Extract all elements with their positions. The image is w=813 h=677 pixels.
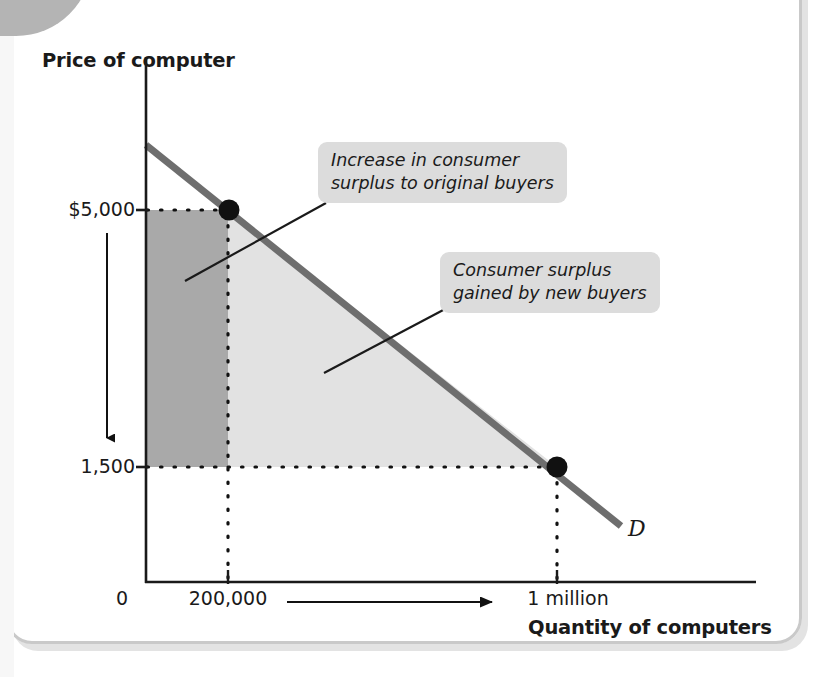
callout-consumer-surplus-new-buyers: Consumer surplus gained by new buyers (440, 252, 660, 313)
figure-panel: Price of computer Quantity of computers … (0, 0, 813, 677)
y-axis-title: Price of computer (42, 50, 138, 73)
callout-increase-in-consumer-surplus: Increase in consumer surplus to original… (318, 142, 567, 203)
x-tick-label-200000: 200,000 (176, 587, 280, 609)
marker-new-quantity-point (547, 457, 568, 478)
region-increase-consumer-surplus-original-buyers (147, 210, 228, 467)
y-tick-label-5000: $5,000 (55, 198, 135, 220)
x-tick-label-1million: 1 million (508, 587, 628, 609)
x-tick-label-zero: 0 (110, 587, 134, 609)
x-axis-title: Quantity of computers (528, 617, 772, 640)
y-tick-label-1500: 1,500 (55, 455, 135, 477)
supply-demand-chart (0, 0, 813, 677)
marker-original-quantity-point (219, 200, 240, 221)
demand-curve-label: D (628, 516, 646, 542)
